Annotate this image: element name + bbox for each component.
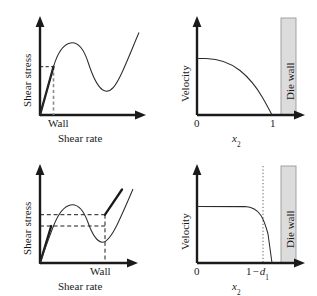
panel-velocity-profile-no-slip: Velocity Die wall 0 1 x2 [160,0,317,148]
x-axis [40,259,138,268]
four-panel-rheology-figure: Shear stress Wall Shear rate [0,0,317,296]
die-wall-label: Die wall [285,210,296,248]
flow-curve [40,189,133,263]
y-axis [193,16,202,115]
x-tick-label-left: 0 [194,266,200,277]
y-axis-label-velocity: Velocity [180,65,191,102]
x-axis-label-x2: x2 [232,133,241,144]
x-axis-label-shear-rate: Shear rate [58,133,102,144]
y-axis [36,164,45,263]
wall-label: Wall [90,266,111,277]
x-tick-label-left: 0 [194,118,200,129]
y-axis-label-velocity: Velocity [180,213,191,250]
flow-curve [40,33,139,116]
y-axis [193,164,202,263]
x-tick-label-right: 1−d1 [246,266,269,277]
velocity-curve [197,59,272,116]
die-wall-label: Die wall [285,62,296,100]
y-axis-label-shear-stress: Shear stress [22,54,33,107]
x-tick-label-right: 1 [270,118,276,129]
wall-label: Wall [48,118,69,129]
x-axis-label-shear-rate: Shear rate [58,281,102,292]
panel-velocity-profile-slip: Velocity Die wall 0 1−d1 x2 [160,148,317,296]
upper-branch-thick-segment [105,190,122,215]
y-axis-label-shear-stress: Shear stress [22,202,33,255]
panel-shear-stress-vs-shear-rate-slip: Shear stress Wall Shear rate [0,148,160,296]
panel-shear-stress-vs-shear-rate-no-slip: Shear stress Wall Shear rate [0,0,160,148]
velocity-curve [197,207,272,264]
x-axis-label-x2: x2 [232,281,241,292]
